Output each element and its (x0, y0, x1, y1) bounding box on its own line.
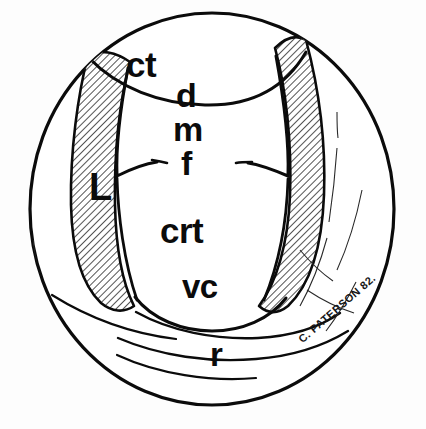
label-m: m (173, 112, 203, 146)
label-f: f (181, 146, 192, 180)
figure-container: ct d m f L crt vc r C. PATERSON 82. (0, 0, 426, 429)
label-crt: crt (160, 213, 203, 248)
label-d: d (176, 78, 196, 112)
label-vc: vc (182, 270, 218, 303)
label-r: r (210, 338, 222, 371)
label-ct: ct (126, 47, 156, 82)
label-l: L (89, 168, 112, 206)
